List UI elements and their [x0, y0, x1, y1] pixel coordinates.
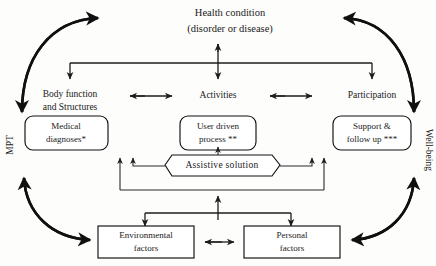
domain-label-activities: Activities	[200, 90, 237, 100]
domain-label-participation: Participation	[348, 90, 397, 100]
domain-label-body-function-line1: Body function	[43, 89, 98, 99]
medical-diagnoses-line2: diagnoses*	[46, 134, 86, 144]
support-follow-up-line2: follow up ***	[347, 134, 398, 144]
assistive-solution-label: Assistive solution	[185, 160, 258, 170]
diagram-canvas: Health condition (disorder or disease) B…	[0, 0, 436, 266]
icf-model-diagram: Health condition (disorder or disease) B…	[0, 0, 436, 266]
medical-diagnoses-line1: Medical	[51, 121, 81, 131]
arc-right-lower	[352, 178, 414, 240]
domain-distribution-bus	[70, 63, 372, 79]
domain-label-body-function-line2: and Structures	[43, 102, 98, 112]
user-driven-process-line2: process **	[199, 134, 238, 144]
environmental-factors-line1: Environmental	[119, 230, 173, 240]
side-label-well-being: Well-being	[424, 129, 434, 171]
health-condition-line2: (disorder or disease)	[187, 23, 273, 35]
personal-factors-line1: Personal	[277, 230, 308, 240]
environmental-factors-line2: factors	[134, 243, 159, 253]
user-driven-process-line1: User driven	[197, 121, 240, 131]
health-condition-line1: Health condition	[195, 7, 266, 18]
side-label-mpt: MPT	[5, 135, 15, 155]
personal-factors-line2: factors	[280, 243, 305, 253]
context-distribution-bus	[145, 196, 291, 226]
arc-left-lower	[24, 178, 90, 240]
support-follow-up-line1: Support &	[353, 121, 391, 131]
